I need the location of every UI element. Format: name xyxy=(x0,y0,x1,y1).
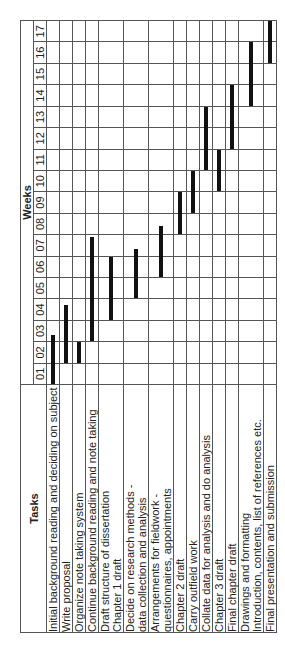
task-label-line: Arrangements for fieldwork - xyxy=(149,385,161,632)
gantt-bar xyxy=(230,127,234,148)
gantt-bar xyxy=(159,226,163,234)
week-cell xyxy=(226,299,239,320)
week-cell xyxy=(187,170,200,191)
week-cell xyxy=(213,21,226,43)
week-cell xyxy=(264,342,277,363)
week-cell xyxy=(73,299,86,320)
week-cell xyxy=(99,277,124,298)
week-cell xyxy=(60,320,73,341)
gantt-bar xyxy=(249,43,253,63)
task-label-line: Chapter 3 draft xyxy=(213,385,225,632)
week-cell xyxy=(200,342,213,363)
week-cell xyxy=(187,128,200,149)
week-cell xyxy=(226,170,239,191)
task-label-line: Write proposal xyxy=(60,385,72,632)
week-label: 11 xyxy=(34,149,47,170)
week-cell xyxy=(239,149,264,170)
week-cell xyxy=(226,235,239,256)
week-label: 07 xyxy=(34,235,47,256)
week-cell xyxy=(187,106,200,127)
task-label: Final presentation and submission xyxy=(264,385,277,633)
week-cell xyxy=(239,235,264,256)
week-label: 01 xyxy=(34,363,47,384)
week-cell xyxy=(226,63,239,84)
week-cell xyxy=(264,63,277,84)
week-cell xyxy=(226,320,239,341)
week-cell xyxy=(124,85,149,106)
task-label: Drawings and formattingIntroduction, con… xyxy=(239,385,264,633)
task-label-line: data collection and analysis xyxy=(136,385,148,632)
week-cell xyxy=(174,106,187,127)
task-label: Carry outfield work xyxy=(187,385,200,633)
week-cell xyxy=(200,213,213,234)
week-cell xyxy=(86,85,99,106)
week-cell xyxy=(124,299,149,320)
week-cell xyxy=(99,363,124,384)
task-label: Chapter 2 draft xyxy=(174,385,187,633)
week-cell xyxy=(239,277,264,298)
week-cell xyxy=(60,192,73,213)
task-label: Write proposal xyxy=(60,385,73,633)
week-cell xyxy=(213,106,226,127)
week-cell xyxy=(200,277,213,298)
task-label: Arrangements for fieldwork -questionnair… xyxy=(149,385,174,633)
week-cell xyxy=(239,21,264,43)
week-cell xyxy=(187,42,200,63)
week-cell xyxy=(239,63,264,84)
gantt-bar xyxy=(90,256,94,277)
week-cell xyxy=(264,256,277,277)
week-cell xyxy=(149,342,174,363)
week-cell xyxy=(149,235,174,256)
week-cell xyxy=(174,192,187,213)
gantt-bar xyxy=(64,306,68,320)
week-cell xyxy=(149,128,174,149)
week-cell xyxy=(239,170,264,191)
week-cell xyxy=(174,277,187,298)
gantt-bar xyxy=(217,170,221,191)
week-cell xyxy=(73,192,86,213)
week-cell xyxy=(86,235,99,256)
week-cell xyxy=(99,170,124,191)
week-cell xyxy=(99,213,124,234)
task-row: Final chapter draft xyxy=(226,21,239,633)
week-cell xyxy=(99,320,124,341)
week-cell xyxy=(60,235,73,256)
week-cell xyxy=(213,128,226,149)
week-cell xyxy=(73,21,86,43)
week-cell xyxy=(200,21,213,43)
task-row: Collate data for analysis and do analysi… xyxy=(200,21,213,633)
week-cell xyxy=(73,149,86,170)
week-cell xyxy=(239,85,264,106)
task-rows: Initial background reading and deciding … xyxy=(47,21,277,633)
week-cell xyxy=(73,42,86,63)
gantt-bar xyxy=(204,149,208,170)
week-cell xyxy=(86,128,99,149)
week-cell xyxy=(226,21,239,43)
week-cell xyxy=(174,85,187,106)
week-cell xyxy=(86,192,99,213)
week-cell xyxy=(149,106,174,127)
week-cell xyxy=(47,85,60,106)
weeks-column-header: Weeks xyxy=(21,21,34,385)
gantt-bar xyxy=(90,237,94,255)
week-label: 13 xyxy=(34,106,47,127)
week-cell xyxy=(73,363,86,384)
week-cell xyxy=(86,21,99,43)
gantt-bar xyxy=(90,320,94,341)
week-cell xyxy=(60,106,73,127)
gantt-bar xyxy=(268,42,272,63)
week-cell xyxy=(149,42,174,63)
task-row: Draft structure of dissertationChapter 1… xyxy=(99,21,124,633)
week-cell xyxy=(213,213,226,234)
task-label-line: Introduction, contents, list of referenc… xyxy=(251,385,263,632)
gantt-bar xyxy=(64,320,68,341)
task-label: Organize note taking system xyxy=(73,385,86,633)
week-cell xyxy=(73,342,86,363)
week-cell xyxy=(47,213,60,234)
week-cell xyxy=(213,170,226,191)
week-cell xyxy=(149,299,174,320)
week-cell xyxy=(200,170,213,191)
week-cell xyxy=(149,192,174,213)
week-cell xyxy=(60,42,73,63)
week-cell xyxy=(60,85,73,106)
